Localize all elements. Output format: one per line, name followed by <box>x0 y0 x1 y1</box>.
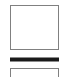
lower-rectangle-outline[interactable] <box>10 68 59 77</box>
divider-bar[interactable] <box>10 57 59 62</box>
upper-square-outline[interactable] <box>10 5 59 50</box>
canvas-root <box>0 0 79 77</box>
